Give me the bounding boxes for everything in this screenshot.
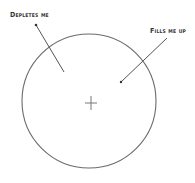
depletes-label: Depletes me xyxy=(10,11,49,19)
fills-label: Fills me up xyxy=(150,27,186,35)
depletes-arrow xyxy=(36,25,64,72)
fills-arrow-dot xyxy=(120,81,122,83)
fills-arrow xyxy=(121,38,167,82)
depletes-arrow-dot xyxy=(35,24,38,27)
boundary-circle xyxy=(22,34,156,168)
